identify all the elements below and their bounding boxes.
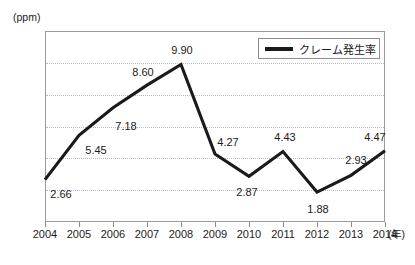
data-label-2006: 7.18	[115, 120, 136, 132]
data-label-2004: 2.66	[50, 188, 71, 200]
data-label-2005: 5.45	[85, 144, 106, 156]
legend: クレーム発生率	[258, 38, 380, 59]
data-label-2014: 4.47	[364, 131, 385, 143]
legend-line-swatch-icon	[265, 47, 293, 51]
data-label-2008: 9.90	[171, 44, 192, 56]
x-tick-mark-2011	[283, 222, 284, 227]
x-tick-mark-2007	[147, 222, 148, 227]
x-axis-unit-label: (年)	[388, 226, 405, 241]
gridline-y-10	[46, 63, 384, 64]
gridline-y-8	[46, 95, 384, 96]
x-tick-mark-2014	[385, 222, 386, 227]
y-axis-unit-label: (ppm)	[13, 11, 40, 23]
data-label-2009: 4.27	[217, 136, 238, 148]
data-label-2013: 2.93	[345, 154, 366, 166]
gridline-y-4	[46, 158, 384, 159]
gridline-y-2	[46, 190, 384, 191]
data-label-2012: 1.88	[307, 203, 328, 215]
x-tick-mark-2006	[113, 222, 114, 227]
data-label-2011: 4.43	[274, 131, 295, 143]
plot-area	[45, 31, 385, 222]
data-label-2010: 2.87	[236, 186, 257, 198]
x-tick-mark-2008	[181, 222, 182, 227]
line-chart: (ppm) 024681012 200420052006200720082009…	[0, 0, 415, 265]
x-tick-mark-2009	[215, 222, 216, 227]
x-tick-mark-2004	[45, 222, 46, 227]
x-tick-mark-2010	[249, 222, 250, 227]
legend-label-claim-rate: クレーム発生率	[299, 41, 376, 57]
gridline-y-6	[46, 127, 384, 128]
x-tick-mark-2012	[317, 222, 318, 227]
data-label-2007: 8.60	[132, 66, 153, 78]
x-tick-mark-2005	[79, 222, 80, 227]
x-tick-mark-2013	[351, 222, 352, 227]
